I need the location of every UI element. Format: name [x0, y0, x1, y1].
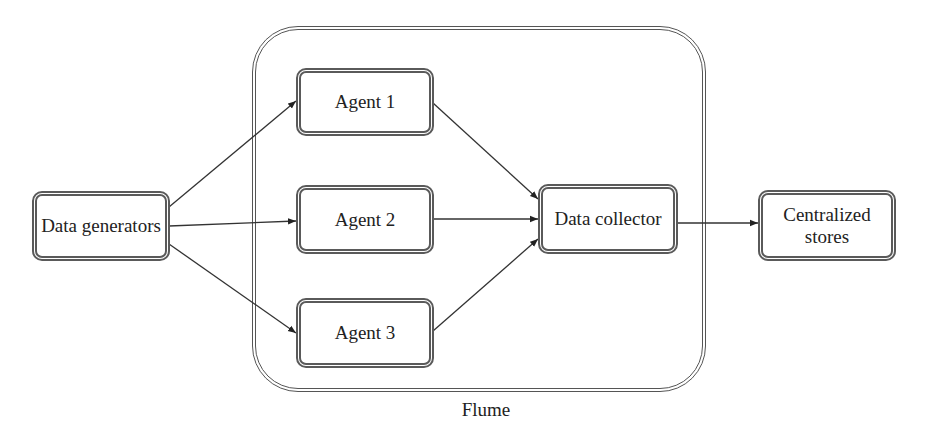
flume-caption: Flume [436, 399, 536, 421]
edge-generators-agent1 [169, 101, 296, 207]
data-collector-label: Data collector [554, 208, 661, 230]
edge-agent3-collector [433, 239, 538, 331]
centralized-stores-label: Centralized stores [781, 204, 873, 248]
data-generators-node: Data generators [32, 191, 170, 261]
agent-2-label: Agent 2 [335, 209, 396, 231]
centralized-stores-node: Centralized stores [758, 190, 896, 261]
edge-generators-agent3 [169, 244, 296, 333]
data-generators-label: Data generators [41, 215, 161, 237]
edge-agent1-collector [433, 103, 538, 199]
agent-1-node: Agent 1 [296, 68, 434, 136]
agent-3-label: Agent 3 [335, 322, 396, 344]
edge-generators-agent2 [169, 221, 296, 226]
data-collector-node: Data collector [538, 184, 678, 254]
agent-2-node: Agent 2 [296, 185, 434, 254]
agent-1-label: Agent 1 [335, 91, 396, 113]
agent-3-node: Agent 3 [296, 298, 434, 368]
